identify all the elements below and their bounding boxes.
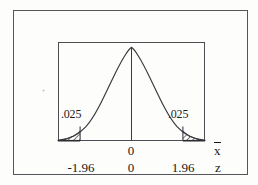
z-axis-row: -1.96 0 1.96 z	[0, 160, 258, 176]
z-tick-right: 1.96	[172, 160, 195, 176]
xbar-tick-center: 0	[128, 143, 135, 159]
xbar-axis-row: 0 x	[0, 143, 258, 159]
xbar-axis-letter: x	[214, 143, 221, 158]
left-tail-shaded-region	[58, 129, 82, 141]
overbar-glyph	[214, 142, 221, 143]
z-tick-center: 0	[128, 160, 135, 176]
left-tail-probability-label: .025	[61, 107, 81, 122]
z-axis-name: z	[215, 160, 221, 176]
right-tail-probability-label: .025	[168, 107, 188, 122]
z-tick-left: -1.96	[67, 160, 94, 176]
normal-curve-plot	[58, 42, 205, 141]
xbar-axis-name: x	[214, 143, 221, 159]
figure-root: .025 .025 0 x -1.96 0 1.96 z	[0, 0, 258, 185]
right-tail-shaded-region	[181, 129, 205, 141]
